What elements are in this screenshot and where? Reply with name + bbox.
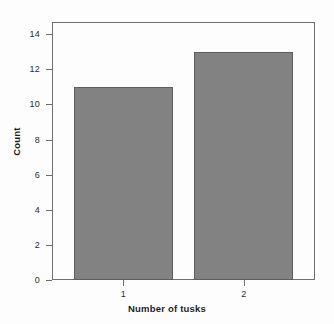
y-tick-mark <box>46 34 52 35</box>
y-axis-title: Count <box>11 102 22 182</box>
y-tick-mark <box>46 104 52 105</box>
x-tick-label: 1 <box>108 289 138 299</box>
x-tick-mark <box>123 280 124 286</box>
y-tick-mark <box>46 245 52 246</box>
bar-chart-figure: 02468101214 12 Count Number of tusks <box>0 0 334 324</box>
bar <box>194 52 293 280</box>
y-tick-label: 2 <box>18 240 40 250</box>
y-tick-label: 12 <box>18 64 40 74</box>
y-tick-label: 14 <box>18 29 40 39</box>
bar <box>74 87 173 280</box>
x-tick-label: 2 <box>229 289 259 299</box>
y-tick-mark <box>46 140 52 141</box>
x-tick-mark <box>244 280 245 286</box>
y-tick-label: 0 <box>18 275 40 285</box>
x-axis-title: Number of tusks <box>0 303 334 314</box>
y-tick-label: 4 <box>18 205 40 215</box>
y-tick-mark <box>46 210 52 211</box>
y-tick-mark <box>46 69 52 70</box>
y-tick-mark <box>46 280 52 281</box>
y-tick-mark <box>46 175 52 176</box>
